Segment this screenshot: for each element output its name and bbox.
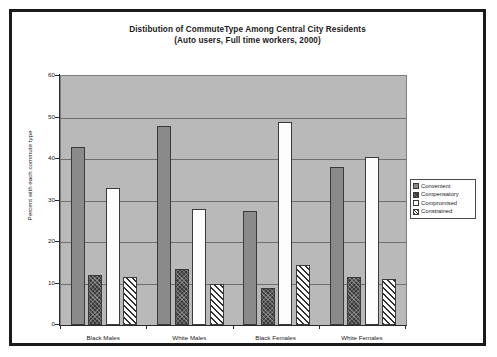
x-tick-mark bbox=[233, 325, 234, 329]
bar-constrained-2 bbox=[296, 265, 310, 325]
bar-compensatory-1 bbox=[175, 269, 189, 325]
bar-convenient-1 bbox=[157, 126, 171, 325]
legend-item-label: Compromised bbox=[421, 200, 457, 207]
y-tick-label: 0 bbox=[31, 321, 55, 327]
y-tick-label: 10 bbox=[31, 280, 55, 286]
x-category-label-0: Black Males bbox=[60, 334, 146, 341]
legend-item-label: Constrained bbox=[421, 208, 452, 215]
bar-chart: Distibution of CommuteType Among Central… bbox=[12, 12, 483, 343]
legend-item-compromised[interactable]: Compromised bbox=[413, 199, 473, 208]
y-tick-mark bbox=[55, 324, 59, 325]
plot-area bbox=[60, 75, 407, 326]
legend-item-constrained[interactable]: Constrained bbox=[413, 208, 473, 217]
bar-compromised-3 bbox=[365, 157, 379, 325]
bar-convenient-2 bbox=[243, 211, 257, 325]
legend-swatch-icon bbox=[413, 200, 419, 206]
x-category-label-2: Black Females bbox=[233, 334, 319, 341]
y-tick-mark bbox=[55, 158, 59, 159]
y-tick-mark bbox=[55, 117, 59, 118]
bar-convenient-3 bbox=[330, 167, 344, 325]
x-tick-mark bbox=[319, 325, 320, 329]
y-tick-mark bbox=[55, 75, 59, 76]
page-frame: Distibution of CommuteType Among Central… bbox=[9, 9, 486, 346]
x-category-label-3: White Females bbox=[319, 334, 405, 341]
legend-swatch-icon bbox=[413, 183, 419, 189]
bar-compromised-2 bbox=[278, 122, 292, 325]
chart-legend[interactable]: ConvenientCompensatoryCompromisedConstra… bbox=[410, 179, 476, 219]
y-axis-line bbox=[59, 74, 60, 326]
y-tick-label: 50 bbox=[31, 114, 55, 120]
bar-constrained-0 bbox=[123, 277, 137, 325]
x-tick-mark bbox=[60, 325, 61, 329]
bar-compensatory-0 bbox=[88, 275, 102, 325]
legend-item-convenient[interactable]: Convenient bbox=[413, 182, 473, 191]
bar-compromised-1 bbox=[192, 209, 206, 325]
chart-subtitle: (Auto users, Full time workers, 2000) bbox=[12, 35, 483, 46]
y-tick-label: 40 bbox=[31, 155, 55, 161]
bar-compensatory-3 bbox=[347, 277, 361, 325]
bar-compromised-0 bbox=[106, 188, 120, 325]
y-tick-mark bbox=[55, 241, 59, 242]
y-axis-title: Percent with each commute type bbox=[26, 96, 33, 256]
bar-constrained-1 bbox=[210, 284, 224, 326]
x-tick-mark bbox=[146, 325, 147, 329]
legend-item-label: Convenient bbox=[421, 183, 450, 190]
bar-constrained-3 bbox=[382, 279, 396, 325]
chart-title-block: Distibution of CommuteType Among Central… bbox=[12, 24, 483, 46]
legend-item-compensatory[interactable]: Compensatory bbox=[413, 191, 473, 200]
y-tick-label: 30 bbox=[31, 197, 55, 203]
gridline bbox=[61, 159, 406, 160]
bar-convenient-0 bbox=[71, 147, 85, 325]
y-tick-label: 60 bbox=[31, 72, 55, 78]
x-category-label-1: White Males bbox=[146, 334, 232, 341]
chart-title: Distibution of CommuteType Among Central… bbox=[12, 24, 483, 35]
legend-swatch-icon bbox=[413, 192, 419, 198]
legend-swatch-icon bbox=[413, 209, 419, 215]
y-tick-mark bbox=[55, 200, 59, 201]
gridline bbox=[61, 118, 406, 119]
y-tick-mark bbox=[55, 283, 59, 284]
y-tick-label: 20 bbox=[31, 238, 55, 244]
x-tick-mark bbox=[405, 325, 406, 329]
bar-compensatory-2 bbox=[261, 288, 275, 325]
legend-item-label: Compensatory bbox=[421, 191, 459, 198]
